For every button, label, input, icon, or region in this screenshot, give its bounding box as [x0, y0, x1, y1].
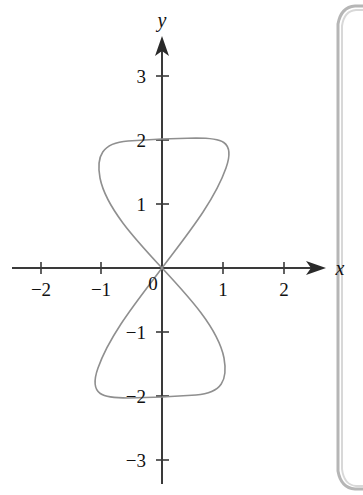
- y-tick-label-2: 2: [137, 130, 147, 151]
- curve-lower-loop: [95, 268, 225, 398]
- y-tick-label--2: −2: [126, 386, 146, 407]
- y-tick-label-1: 1: [137, 194, 147, 215]
- figure-page: −2 −1 1 2 3 2 1 −1 −2 −3 0 x y: [0, 0, 363, 495]
- y-axis-label: y: [156, 9, 167, 32]
- curve-upper-loop: [99, 138, 229, 268]
- page-edge-shadow: [342, 10, 363, 486]
- y-tick-label-3: 3: [137, 66, 147, 87]
- graph-canvas: −2 −1 1 2 3 2 1 −1 −2 −3 0 x y: [0, 0, 363, 495]
- x-tick-label-2: 2: [279, 279, 289, 300]
- x-tick-label--2: −2: [31, 279, 51, 300]
- y-tick-label--1: −1: [126, 322, 146, 343]
- x-tick-label--1: −1: [91, 279, 111, 300]
- y-tick-label--3: −3: [126, 450, 146, 471]
- x-tick-label-1: 1: [218, 279, 228, 300]
- origin-label: 0: [148, 273, 158, 294]
- x-axis-label: x: [335, 257, 345, 279]
